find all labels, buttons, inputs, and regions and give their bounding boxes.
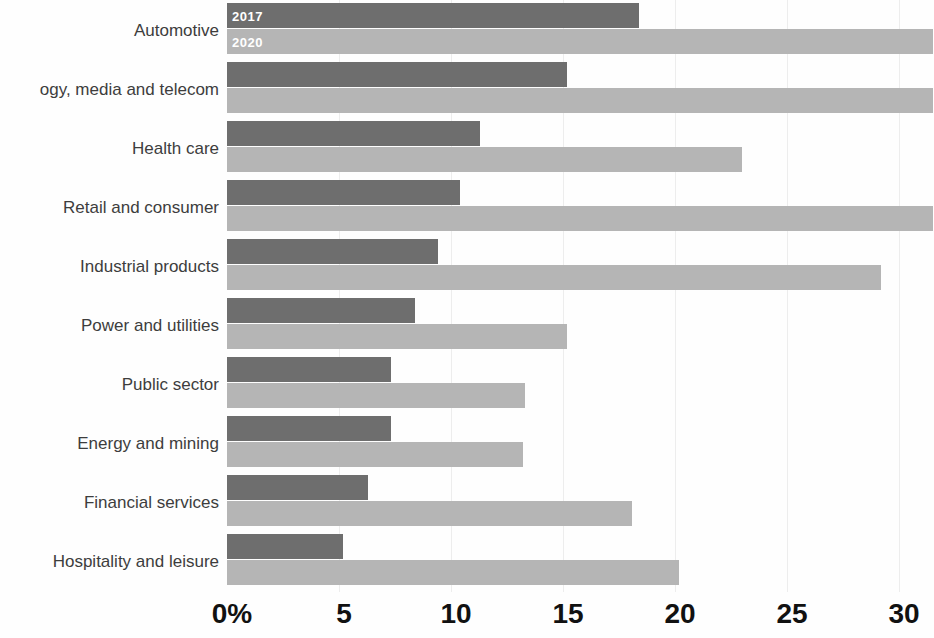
bar-row [227,62,934,114]
bar-row [227,357,934,409]
bar-2017[interactable] [227,534,343,559]
bar-2017[interactable] [227,357,391,382]
category-label: Financial services [0,494,219,511]
bar-2017[interactable] [227,475,368,500]
bar-row: 20172020 [227,3,934,55]
bar-row [227,121,934,173]
x-tick-label: 15 [552,598,583,630]
category-label: Power and utilities [0,317,219,334]
bar-2020[interactable] [227,147,742,172]
bar-2020[interactable] [227,383,525,408]
category-label: ogy, media and telecom [0,81,219,98]
legend-label-2020: 2020 [232,34,263,49]
bar-chart: Automotiveogy, media and telecomHealth c… [0,0,934,638]
category-label: Public sector [0,376,219,393]
bar-2020[interactable] [227,560,679,585]
category-label: Industrial products [0,258,219,275]
category-axis: Automotiveogy, media and telecomHealth c… [0,0,219,592]
plot-area: 20172020 [227,0,934,592]
bar-rows: 20172020 [227,0,934,592]
x-tick-label: 5 [336,598,352,630]
bar-2017[interactable] [227,121,480,146]
bar-row [227,239,934,291]
bar-row [227,416,934,468]
bar-2020[interactable]: 2020 [227,29,933,54]
bar-row [227,298,934,350]
category-label: Retail and consumer [0,199,219,216]
category-label: Automotive [0,22,219,39]
value-axis: 0%51015202530 [227,598,934,638]
bar-2017[interactable]: 2017 [227,3,639,28]
bar-2020[interactable] [227,88,933,113]
x-tick-label: 30 [888,598,919,630]
bar-row [227,180,934,232]
category-label: Energy and mining [0,435,219,452]
bar-2020[interactable] [227,265,881,290]
bar-2020[interactable] [227,442,523,467]
legend-label-2017: 2017 [232,8,263,23]
bar-2017[interactable] [227,180,460,205]
x-tick-label: 10 [440,598,471,630]
bar-row [227,475,934,527]
x-tick-label: 0% [212,598,252,630]
x-tick-label: 25 [776,598,807,630]
bar-2017[interactable] [227,239,438,264]
bar-2017[interactable] [227,416,391,441]
x-tick-label: 20 [664,598,695,630]
bar-2020[interactable] [227,206,933,231]
bar-row [227,534,934,586]
category-label: Health care [0,140,219,157]
bar-2020[interactable] [227,324,567,349]
bar-2020[interactable] [227,501,632,526]
bar-2017[interactable] [227,298,415,323]
bar-2017[interactable] [227,62,567,87]
category-label: Hospitality and leisure [0,553,219,570]
